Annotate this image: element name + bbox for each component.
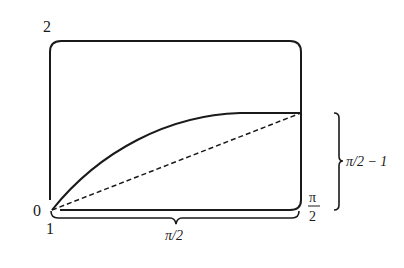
- bottom-brace: [51, 211, 299, 224]
- label-right-brace: π/2 − 1: [346, 154, 387, 169]
- label-origin: 0: [33, 202, 41, 219]
- label-top-left: 2: [43, 18, 51, 35]
- dashed-chord: [52, 113, 301, 210]
- label-right-denominator: 2: [309, 209, 316, 224]
- label-right-numerator: π: [309, 190, 316, 205]
- rounded-box: [50, 41, 301, 210]
- diagram-canvas: 2 0 1 π 2 π/2 π/2 − 1: [0, 0, 404, 268]
- label-bottom-brace: π/2: [165, 228, 183, 243]
- label-bottom-left-below: 1: [46, 220, 54, 237]
- right-brace: [334, 113, 343, 210]
